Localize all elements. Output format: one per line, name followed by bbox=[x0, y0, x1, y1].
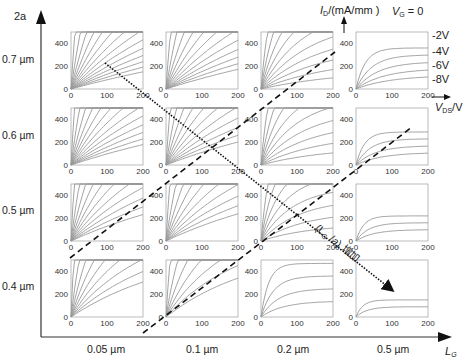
x-tick-label: 100 bbox=[195, 91, 209, 100]
x-tick-label: 100 bbox=[100, 243, 114, 252]
row-label-2: 0.5 µm bbox=[2, 204, 34, 216]
x-tick-label: 200 bbox=[231, 91, 245, 100]
y-tick-label: 200 bbox=[245, 138, 259, 147]
x-tick-label: 0 bbox=[164, 243, 169, 252]
x-tick-label: 0 bbox=[164, 91, 169, 100]
x-tick-label: 100 bbox=[100, 319, 114, 328]
y-tick-label: 200 bbox=[245, 290, 259, 299]
y-axis-arrow-icon bbox=[36, 10, 46, 24]
y-tick-label: 400 bbox=[55, 267, 69, 276]
x-tick-label: 100 bbox=[385, 91, 399, 100]
y-tick-label: 400 bbox=[150, 267, 164, 276]
y-tick-label: 200 bbox=[245, 62, 259, 71]
x-tick-label: 0 bbox=[69, 243, 74, 252]
subplot-r1-c2: 02004000100200 bbox=[245, 108, 341, 176]
x-tick-label: 100 bbox=[290, 91, 304, 100]
y-tick-label: 200 bbox=[150, 62, 164, 71]
x-tick-label: 0 bbox=[354, 91, 359, 100]
y-tick-label: 200 bbox=[340, 138, 354, 147]
x-tick-label: 200 bbox=[231, 167, 245, 176]
figure-canvas: 0200400010020002004000100200020040001002… bbox=[0, 0, 472, 363]
x-tick-label: 0 bbox=[164, 167, 169, 176]
subplot-r2-c0: 02004000100200 bbox=[55, 184, 151, 252]
y-tick-label: 400 bbox=[55, 39, 69, 48]
x-axis-label-sub: G bbox=[451, 351, 456, 358]
vg-legend-2: -6V bbox=[432, 59, 449, 71]
subplot-r3-c0: 02004000100200 bbox=[55, 260, 151, 328]
row-label-3: 0.4 µm bbox=[2, 280, 34, 292]
subplot-grid: 0200400010020002004000100200020040001002… bbox=[55, 32, 436, 328]
subplot-r1-c1: 02004000100200 bbox=[150, 108, 246, 176]
y-tick-label: 400 bbox=[340, 191, 354, 200]
x-tick-label: 100 bbox=[100, 167, 114, 176]
x-tick-label: 0 bbox=[259, 243, 264, 252]
y-tick-label: 400 bbox=[340, 115, 354, 124]
subplot-r3-c3: 02004000100200 bbox=[340, 260, 436, 328]
x-tick-label: 200 bbox=[136, 167, 150, 176]
x-tick-label: 0 bbox=[259, 319, 264, 328]
y-tick-label: 400 bbox=[150, 115, 164, 124]
x-tick-label: 0 bbox=[259, 91, 264, 100]
y-tick-label: 200 bbox=[340, 214, 354, 223]
x-tick-label: 200 bbox=[231, 319, 245, 328]
subplot-r2-c1: 02004000100200 bbox=[150, 184, 246, 252]
subplot-r0-c3: 02004000100200 bbox=[340, 32, 436, 100]
subplot-frame bbox=[356, 260, 428, 317]
vg-legend-1: -4V bbox=[432, 45, 449, 57]
subplot-frame bbox=[261, 260, 333, 317]
y-tick-label: 400 bbox=[150, 39, 164, 48]
x-tick-label: 0 bbox=[259, 167, 264, 176]
x-tick-label: 100 bbox=[195, 319, 209, 328]
y-tick-label: 400 bbox=[245, 191, 259, 200]
x-tick-label: 200 bbox=[421, 167, 435, 176]
vg-legend-0: -2V bbox=[432, 29, 449, 41]
x-tick-label: 200 bbox=[421, 319, 435, 328]
y-tick-label: 200 bbox=[55, 62, 69, 71]
subplot-r0-c0: 02004000100200 bbox=[55, 32, 151, 100]
vds-label-unit: /V bbox=[452, 101, 462, 113]
x-tick-label: 0 bbox=[69, 319, 74, 328]
vds-label-sub: DS bbox=[442, 107, 452, 114]
y-tick-label: 200 bbox=[150, 214, 164, 223]
subplot-r0-c2: 02004000100200 bbox=[245, 32, 341, 100]
id-label-unit: /(mA/mm ) bbox=[328, 4, 379, 16]
row-label-1: 0.6 µm bbox=[2, 129, 34, 141]
x-tick-label: 100 bbox=[290, 319, 304, 328]
subplot-frame bbox=[71, 260, 143, 317]
row-label-0: 0.7 µm bbox=[2, 53, 34, 65]
subplot-r1-c3: 02004000100200 bbox=[340, 108, 436, 176]
y-tick-label: 200 bbox=[340, 290, 354, 299]
subplot-r3-c2: 02004000100200 bbox=[245, 260, 341, 328]
vg-label: VG = 0 bbox=[392, 5, 423, 18]
x-tick-label: 100 bbox=[290, 243, 304, 252]
col-label-0: 0.05 µm bbox=[87, 343, 125, 355]
x-tick-label: 200 bbox=[421, 243, 435, 252]
x-axis-arrow-icon bbox=[438, 332, 452, 342]
vg-label-eq: = 0 bbox=[405, 5, 424, 17]
vds-arrow-icon bbox=[444, 94, 451, 100]
id-axis-label: ID/(mA/mm ) bbox=[320, 4, 379, 17]
y-tick-label: 400 bbox=[150, 191, 164, 200]
subplot-r0-c1: 02004000100200 bbox=[150, 32, 246, 100]
y-tick-label: 200 bbox=[340, 62, 354, 71]
x-tick-label: 200 bbox=[136, 319, 150, 328]
y-tick-label: 400 bbox=[245, 39, 259, 48]
x-tick-label: 0 bbox=[164, 319, 169, 328]
y-tick-label: 200 bbox=[245, 214, 259, 223]
y-axis-label: 2a bbox=[14, 10, 26, 22]
y-tick-label: 400 bbox=[340, 39, 354, 48]
vds-axis-label: VDS/V bbox=[435, 101, 462, 114]
y-tick-label: 200 bbox=[55, 214, 69, 223]
y-tick-label: 200 bbox=[55, 290, 69, 299]
y-tick-label: 200 bbox=[55, 138, 69, 147]
col-label-1: 0.1 µm bbox=[186, 343, 218, 355]
col-label-2: 0.2 µm bbox=[277, 343, 309, 355]
x-tick-label: 0 bbox=[354, 319, 359, 328]
x-tick-label: 200 bbox=[326, 91, 340, 100]
x-tick-label: 200 bbox=[421, 91, 435, 100]
x-tick-label: 100 bbox=[195, 243, 209, 252]
col-label-3: 0.5 µm bbox=[377, 343, 409, 355]
subplot-r1-c0: 02004000100200 bbox=[55, 108, 151, 176]
y-tick-label: 400 bbox=[55, 115, 69, 124]
y-tick-label: 200 bbox=[150, 138, 164, 147]
